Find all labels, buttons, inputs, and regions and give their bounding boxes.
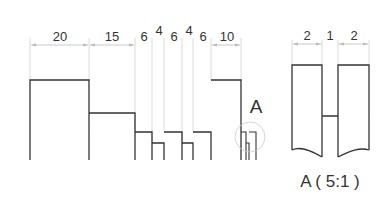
detail-scale-label: A ( 5:1 ) <box>300 172 360 191</box>
dim-4b: 4 <box>185 23 192 38</box>
detail-outline <box>292 65 369 157</box>
dim-20: 20 <box>53 29 67 44</box>
dim-6a: 6 <box>140 29 147 44</box>
dim-4a: 4 <box>155 23 162 38</box>
detail-dim-1: 1 <box>326 28 333 43</box>
dim-6b: 6 <box>170 29 177 44</box>
main-profile-outline <box>30 80 241 160</box>
detail-dim-2a: 2 <box>303 28 310 43</box>
detail-fingers <box>241 132 256 160</box>
technical-drawing: 20 15 6 4 6 4 6 10 A 2 1 2 A ( 5:1 ) <box>0 0 389 197</box>
dim-10: 10 <box>220 29 234 44</box>
dim-15: 15 <box>105 29 119 44</box>
main-dimension-labels: 20 15 6 4 6 4 6 10 <box>53 23 234 44</box>
detail-callout-label: A <box>250 96 263 117</box>
dim-6c: 6 <box>199 29 206 44</box>
detail-dim-2b: 2 <box>350 28 357 43</box>
detail-circle <box>235 122 265 152</box>
detail-view: 2 1 2 A ( 5:1 ) <box>292 28 369 191</box>
